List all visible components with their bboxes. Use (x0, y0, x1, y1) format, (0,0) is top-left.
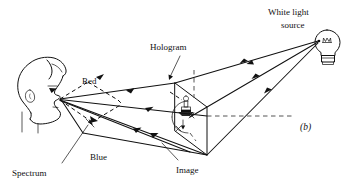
figure-caption: (b) (300, 122, 311, 133)
red-label: Red (82, 76, 97, 86)
hologram-label: Hologram (150, 42, 187, 52)
image-label: Image (176, 165, 199, 175)
figure-canvas: White light source Hologram Red Blue Spe… (0, 0, 355, 188)
hologram-figure: White light source Hologram Red Blue Spe… (0, 0, 355, 188)
light-bulb (315, 30, 340, 65)
white-light-label-line2: source (281, 20, 305, 30)
head-profile (18, 57, 66, 133)
blue-label: Blue (90, 152, 107, 162)
illumination-rays (175, 41, 318, 155)
spectrum-label: Spectrum (12, 168, 47, 178)
white-light-label-line1: White light (268, 7, 309, 17)
diffracted-rays (60, 83, 207, 155)
